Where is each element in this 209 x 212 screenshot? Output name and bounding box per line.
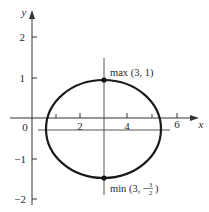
origin-label: 0 — [22, 121, 28, 133]
y-axis-arrow-icon — [29, 10, 35, 19]
y-tick-label-1: 1 — [20, 72, 26, 84]
min-point-label: min (3, − 3 2 ) — [110, 181, 159, 197]
y-tick-label-neg1: −1 — [14, 153, 26, 165]
y-tick-label-neg2: −2 — [14, 193, 26, 205]
min-label-prefix: min (3, − — [110, 183, 149, 195]
min-point — [101, 175, 106, 180]
y-axis-label: y — [21, 6, 27, 18]
ellipse-curve — [46, 80, 161, 178]
min-label-denominator: 2 — [149, 189, 152, 196]
x-axis-label: x — [198, 118, 204, 130]
ellipse-diagram: 2 4 6 2 1 −1 −2 0 x y max (3, 1) min (3,… — [0, 0, 209, 212]
max-point-label: max (3, 1) — [110, 67, 154, 79]
min-label-suffix: ) — [155, 183, 159, 195]
y-tick-label-2: 2 — [20, 31, 26, 43]
min-label-numerator: 3 — [149, 181, 152, 188]
x-tick-label-6: 6 — [174, 118, 180, 130]
max-point — [101, 77, 106, 82]
